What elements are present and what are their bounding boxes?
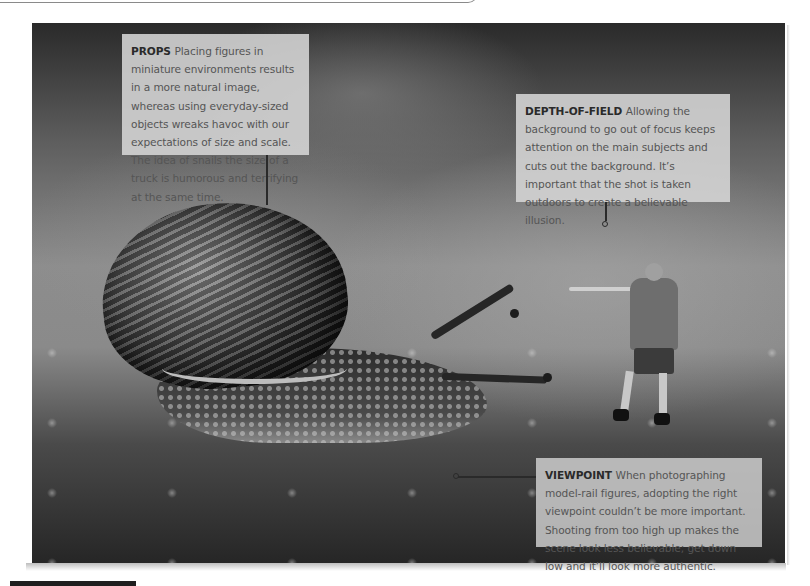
callout-title: PROPS xyxy=(131,45,174,57)
figure-torso xyxy=(630,278,678,350)
figure-leg xyxy=(620,371,633,412)
snail-shell-lip xyxy=(162,353,347,384)
props-connector-line xyxy=(266,155,268,205)
tentacle-tip xyxy=(543,373,552,382)
page-top-rule xyxy=(0,0,478,3)
dof-connector-dot xyxy=(602,221,608,227)
callout-body: Placing figures in miniature environment… xyxy=(131,45,298,203)
callout-title: VIEWPOINT xyxy=(545,469,616,481)
dof-connector-line xyxy=(605,202,607,221)
figure-leg xyxy=(659,373,667,415)
viewpoint-connector-line xyxy=(458,476,536,478)
figure-shorts xyxy=(634,348,674,374)
callout-viewpoint: VIEWPOINT When photographing model-rail … xyxy=(536,458,762,547)
page-bottom-bar xyxy=(10,581,136,586)
callout-title: DEPTH-OF-FIELD xyxy=(525,105,626,117)
figure-boot xyxy=(654,413,670,425)
snail-upper-tentacle xyxy=(430,283,515,340)
callout-body: When photographing model-rail figures, a… xyxy=(545,469,746,572)
viewpoint-connector-dot xyxy=(453,473,459,479)
figure-boot xyxy=(613,409,629,421)
figure-head xyxy=(645,263,663,281)
tentacle-tip xyxy=(510,309,519,318)
callout-body: Allowing the background to go out of foc… xyxy=(525,105,715,226)
callout-props: PROPS Placing figures in miniature envir… xyxy=(122,34,309,155)
photo-frame-edge xyxy=(787,25,790,565)
callout-depth-of-field: DEPTH-OF-FIELD Allowing the background t… xyxy=(516,94,730,202)
